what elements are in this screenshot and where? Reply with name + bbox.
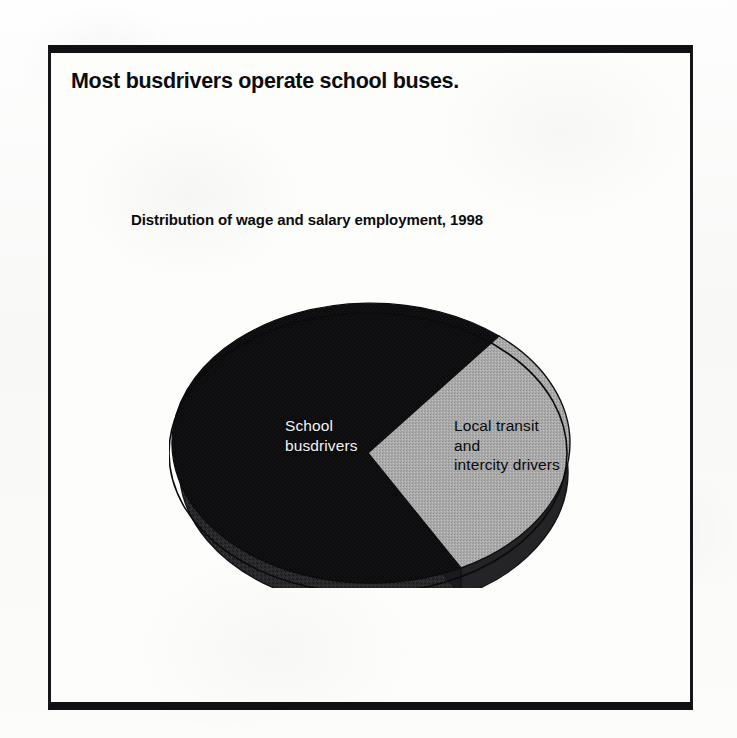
pie-chart: School busdrivers Local transit and inte…	[169, 258, 589, 588]
figure-page: Most busdrivers operate school buses. Di…	[0, 0, 737, 738]
slice-label-local-transit: Local transit and intercity drivers	[454, 416, 560, 475]
figure-frame-border: Most busdrivers operate school buses. Di…	[48, 45, 693, 710]
chart-subtitle: Distribution of wage and salary employme…	[131, 211, 651, 228]
figure-frame-interior: Most busdrivers operate school buses. Di…	[51, 53, 690, 702]
page-title: Most busdrivers operate school buses.	[71, 69, 671, 94]
slice-label-school-busdrivers: School busdrivers	[285, 416, 358, 455]
